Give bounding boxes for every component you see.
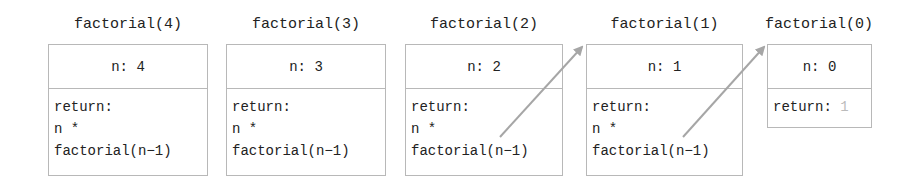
return-line: n *: [592, 118, 742, 140]
frame-return: return: 1: [768, 89, 871, 118]
return-line: return:: [54, 96, 207, 118]
frame-variable-n: n: 4: [49, 45, 207, 89]
frame-title-factorial-3: factorial(3): [226, 16, 386, 33]
frame-variable-n: n: 0: [768, 45, 871, 89]
return-value: 1: [840, 99, 848, 115]
return-line: factorial(n−1): [232, 140, 385, 162]
return-line: n *: [232, 118, 385, 140]
stack-frame-factorial-3: n: 3 return: n * factorial(n−1): [226, 44, 386, 176]
return-label: return:: [773, 99, 832, 115]
frame-title-factorial-0: factorial(0): [752, 16, 886, 33]
stack-frame-factorial-4: n: 4 return: n * factorial(n−1): [48, 44, 208, 176]
frame-variable-n: n: 1: [587, 45, 742, 89]
return-line: factorial(n−1): [54, 140, 207, 162]
frame-variable-n: n: 3: [227, 45, 385, 89]
return-line: n *: [411, 118, 562, 140]
stack-frame-factorial-0: n: 0 return: 1: [767, 44, 872, 128]
return-line: return:: [411, 96, 562, 118]
frame-return: return: n * factorial(n−1): [49, 89, 207, 162]
frame-title-factorial-1: factorial(1): [586, 16, 743, 33]
return-line: n *: [54, 118, 207, 140]
frame-return: return: n * factorial(n−1): [587, 89, 742, 162]
frame-title-factorial-2: factorial(2): [405, 16, 563, 33]
frame-return: return: n * factorial(n−1): [227, 89, 385, 162]
stack-frame-factorial-2: n: 2 return: n * factorial(n−1): [405, 44, 563, 176]
frame-variable-n: n: 2: [406, 45, 562, 89]
return-line: return:: [232, 96, 385, 118]
return-line: return: 1: [773, 96, 871, 118]
return-line: factorial(n−1): [411, 140, 562, 162]
frame-title-factorial-4: factorial(4): [48, 16, 208, 33]
return-line: return:: [592, 96, 742, 118]
frame-return: return: n * factorial(n−1): [406, 89, 562, 162]
stack-frame-factorial-1: n: 1 return: n * factorial(n−1): [586, 44, 743, 176]
return-line: factorial(n−1): [592, 140, 742, 162]
